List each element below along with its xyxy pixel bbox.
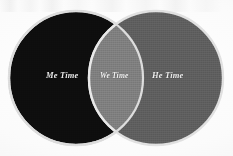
- venn-label-he-time: He Time: [152, 71, 184, 80]
- venn-diagram-figure: Me Time We Time He Time: [0, 0, 233, 156]
- venn-label-we-time: We Time: [100, 72, 129, 80]
- venn-label-me-time: Me Time: [46, 71, 78, 80]
